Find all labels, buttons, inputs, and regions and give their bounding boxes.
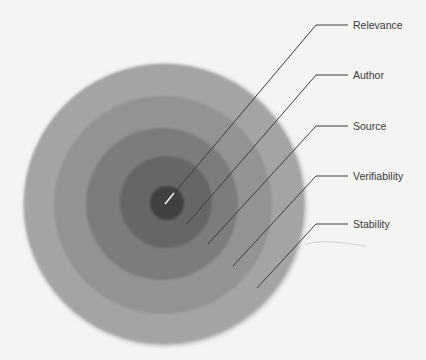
label-source: Source [353, 120, 386, 132]
label-author: Author [353, 69, 384, 81]
layer-rings [24, 64, 306, 346]
label-verifiability: Verifiability [353, 170, 403, 182]
label-stability: Stability [353, 218, 390, 230]
ring-relevance [150, 186, 184, 220]
label-relevance: Relevance [353, 19, 403, 31]
concentric-layers-diagram: Relevance Author Source Verifiability St… [0, 0, 426, 360]
faint-curve-artifact [305, 242, 365, 246]
